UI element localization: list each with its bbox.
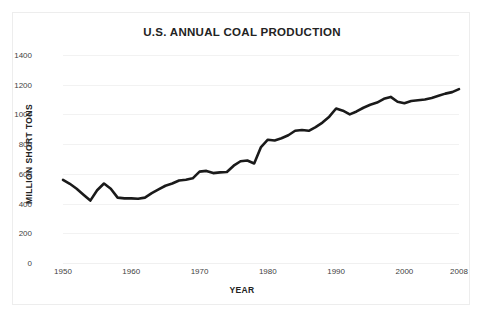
data-line-coal-production [63, 89, 459, 200]
y-tick-400: 400 [0, 199, 32, 208]
chart-screenshot: U.S. ANNUAL COAL PRODUCTION MILLION SHOR… [0, 0, 484, 321]
plot-area: 0200400600800100012001400 [63, 55, 459, 263]
x-tick-2008: 2008 [450, 267, 468, 276]
x-tick-2000: 2000 [395, 267, 413, 276]
x-tick-1960: 1960 [122, 267, 140, 276]
y-tick-1400: 1400 [0, 51, 32, 60]
chart-title: U.S. ANNUAL COAL PRODUCTION [0, 26, 484, 38]
y-tick-1200: 1200 [0, 80, 32, 89]
line-series-canvas [63, 55, 459, 263]
x-tick-1970: 1970 [191, 267, 209, 276]
y-tick-600: 600 [0, 169, 32, 178]
x-tick-1950: 1950 [54, 267, 72, 276]
y-tick-800: 800 [0, 140, 32, 149]
y-tick-0: 0 [0, 259, 32, 268]
x-axis-title: YEAR [0, 285, 484, 295]
y-tick-200: 200 [0, 229, 32, 238]
y-tick-1000: 1000 [0, 110, 32, 119]
x-tick-1980: 1980 [259, 267, 277, 276]
x-tick-1990: 1990 [327, 267, 345, 276]
gridline-0 [63, 263, 459, 264]
y-axis-title: MILLION SHORT TONS [24, 104, 34, 204]
